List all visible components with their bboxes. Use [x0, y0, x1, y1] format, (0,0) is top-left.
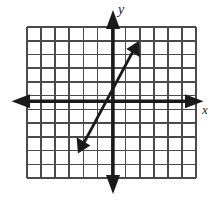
coordinate-plane-graph: [0, 0, 214, 204]
x-axis-label: x: [202, 103, 208, 116]
graph-screenshot: y x: [0, 0, 214, 204]
y-axis-label: y: [118, 3, 124, 17]
